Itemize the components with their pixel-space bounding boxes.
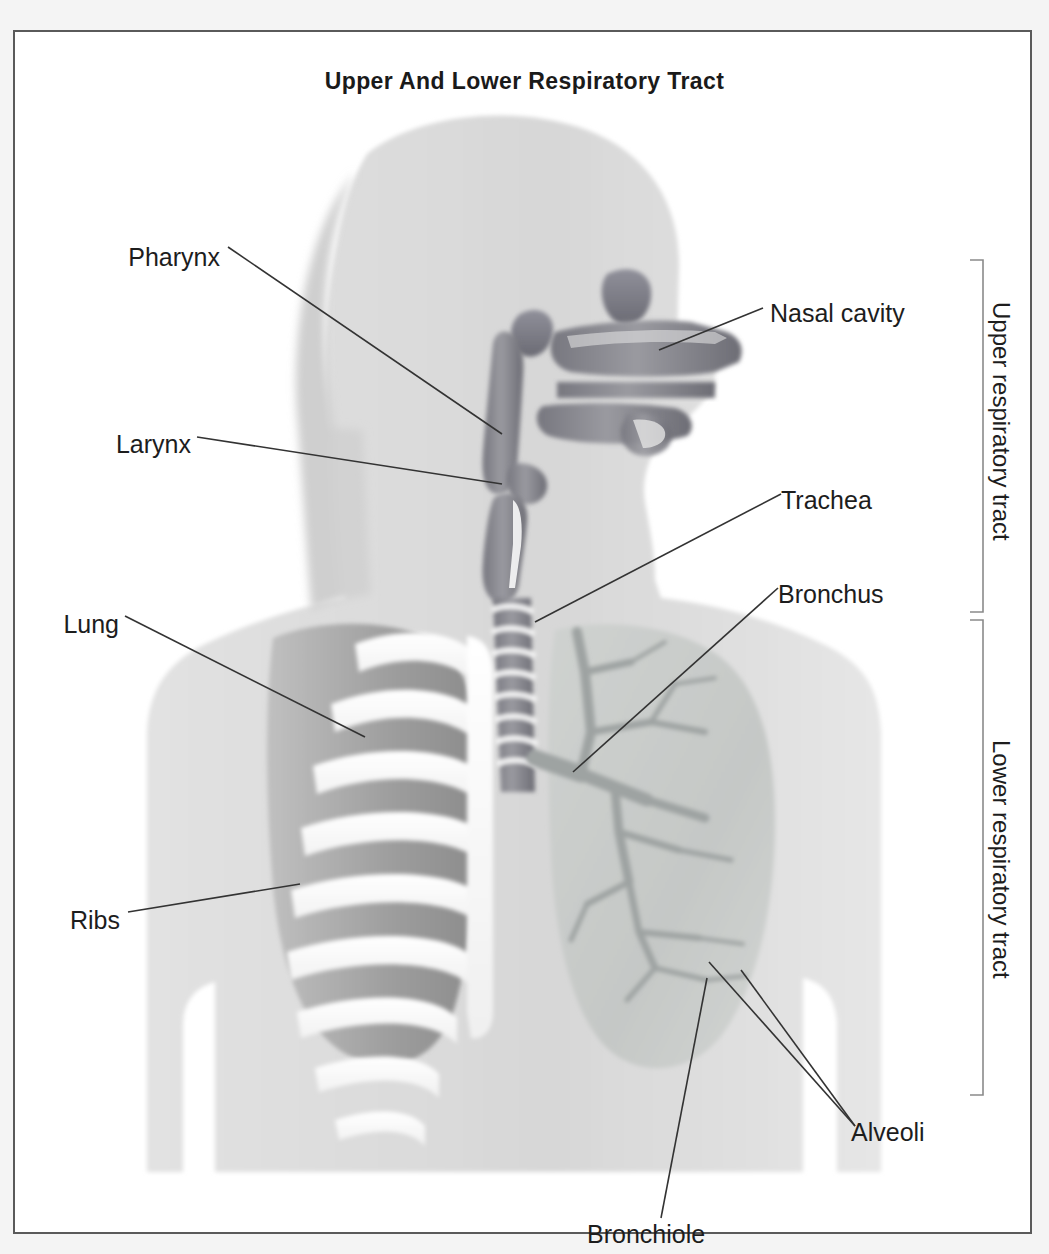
label-lung: Lung [63, 612, 119, 637]
respiratory-system-illustration [15, 32, 1034, 1236]
bracket-lower [970, 620, 983, 1095]
label-trachea: Trachea [781, 488, 872, 513]
bracket-label-lower: Lower respiratory tract [987, 740, 1015, 979]
label-bronchus: Bronchus [778, 582, 884, 607]
label-larynx: Larynx [116, 432, 191, 457]
figure-frame: Upper And Lower Respiratory Tract [13, 30, 1032, 1234]
label-nasal-cavity: Nasal cavity [770, 301, 905, 326]
hard-palate [557, 382, 715, 398]
label-bronchiole: Bronchiole [587, 1222, 705, 1247]
figure-page: Upper And Lower Respiratory Tract [0, 0, 1049, 1254]
label-pharynx: Pharynx [128, 245, 220, 270]
bracket-upper [970, 260, 983, 612]
bracket-label-upper: Upper respiratory tract [987, 302, 1015, 541]
label-alveoli: Alveoli [851, 1120, 925, 1145]
tract-brackets [970, 260, 983, 1095]
label-ribs: Ribs [70, 908, 120, 933]
